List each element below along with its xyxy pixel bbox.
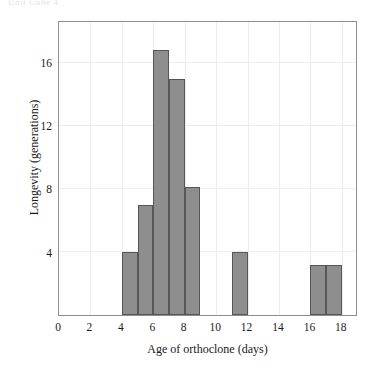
histogram-bar — [138, 205, 154, 315]
bars-group — [59, 22, 356, 315]
x-axis-label: Age of orthoclone (days) — [58, 342, 357, 357]
plot-area — [58, 21, 357, 316]
histogram-bar — [232, 252, 248, 315]
histogram-bar — [326, 265, 342, 315]
histogram-figure: Unit Cube 4 481216 024681012141618 Age o… — [0, 0, 380, 369]
x-axis-tick-labels: 024681012141618 — [58, 322, 357, 336]
histogram-bar — [122, 252, 138, 315]
histogram-bar — [169, 79, 185, 315]
histogram-bar — [185, 187, 201, 315]
x-tick-label-18: 18 — [321, 322, 361, 334]
y-axis-label: Longevity (generations) — [27, 38, 42, 278]
histogram-bar — [310, 265, 326, 315]
histogram-bar — [153, 50, 169, 315]
top-caption-fragment: Unit Cube 4 — [8, 0, 59, 7]
